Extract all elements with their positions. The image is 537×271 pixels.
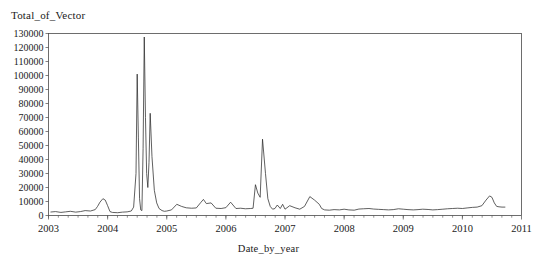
y-tick-label: 60000 [19,126,44,137]
line-chart-plot: 0100002000030000400005000060000700008000… [0,0,537,271]
y-tick-label: 130000 [14,28,44,39]
y-tick-label: 70000 [19,112,44,123]
y-tick-label: 0 [39,210,44,221]
chart-container: Total_of_Vector 010000200003000040000500… [0,0,537,271]
y-tick-label: 100000 [14,70,44,81]
x-tick-label: 2011 [511,223,532,234]
y-tick-label: 50000 [19,140,44,151]
y-tick-label: 20000 [19,182,44,193]
y-tick-label: 10000 [19,196,44,207]
y-tick-label: 80000 [19,98,44,109]
x-tick-label: 2005 [156,223,177,234]
y-tick-label: 110000 [14,56,44,67]
y-tick-label: 120000 [14,42,44,53]
x-tick-label: 2009 [393,223,414,234]
y-tick-label: 90000 [19,84,44,95]
data-series-line [51,37,505,213]
x-axis-label: Date_by_year [0,243,537,254]
x-tick-label: 2008 [334,223,355,234]
x-tick-label: 2006 [215,223,236,234]
x-tick-label: 2004 [97,223,119,234]
x-axis-ticks: 200320042005200620072008200920102011 [38,216,532,234]
y-axis-ticks: 0100002000030000400005000060000700008000… [14,28,49,221]
y-tick-label: 40000 [19,154,44,165]
plot-frame [49,34,522,216]
x-tick-label: 2007 [275,223,296,234]
x-tick-label: 2003 [38,223,59,234]
x-tick-label: 2010 [452,223,473,234]
y-tick-label: 30000 [19,168,44,179]
